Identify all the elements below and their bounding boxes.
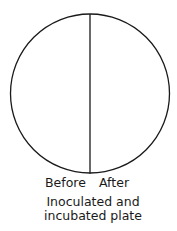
before-label: Before (45, 176, 86, 190)
caption-line-1: Inoculated and (0, 195, 177, 209)
caption-line-2: incubated plate (0, 209, 177, 223)
after-label: After (99, 176, 129, 190)
